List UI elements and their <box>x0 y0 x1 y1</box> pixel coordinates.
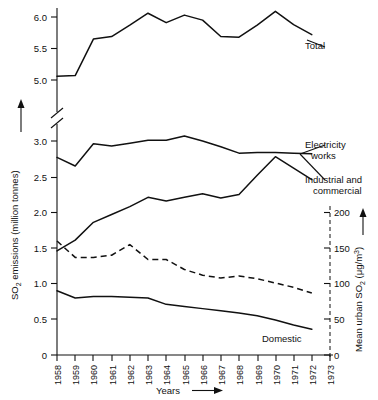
left-axis-arrow-icon <box>18 99 25 132</box>
right-axis-title-part2: (μg/m <box>353 254 364 281</box>
left-y-ticks: 6.0 5.5 5.0 3.0 2.5 2.0 1.5 1.0 0.5 0 <box>34 12 57 361</box>
series-layer <box>57 11 312 329</box>
ytick-label-1.5: 1.5 <box>34 243 47 254</box>
xtick-label-1968: 1968 <box>235 365 245 385</box>
series-line-electricity-works <box>57 136 312 166</box>
xtick-label-1961: 1961 <box>108 365 118 385</box>
rtick-label-150: 150 <box>334 243 350 254</box>
right-y-ticks: 200 150 100 50 0 <box>324 207 350 361</box>
ytick-label-0.5: 0.5 <box>34 314 47 325</box>
series-line-mean-urban-so2 <box>57 241 312 293</box>
left-axis-title: SO2 emissions (million tonnes) <box>9 170 22 300</box>
left-axis-title-part1: SO <box>9 286 20 300</box>
x-axis-title: Years <box>156 385 180 396</box>
xtick-label-1960: 1960 <box>89 365 99 385</box>
ytick-label-2.5: 2.5 <box>34 172 47 183</box>
left-axis-title-part2: emissions (million tonnes) <box>9 170 20 282</box>
series-line-total <box>57 11 312 76</box>
xtick-label-1963: 1963 <box>144 365 154 385</box>
annotation-electricity-line1: Electricity <box>305 139 346 150</box>
x-ticks: 1958 1959 1960 1961 1962 1963 1964 1965 … <box>53 355 336 385</box>
rtick-label-100: 100 <box>334 278 350 289</box>
ytick-label-5.5: 5.5 <box>34 43 47 54</box>
ytick-label-5.0: 5.0 <box>34 75 47 86</box>
xtick-label-1973: 1973 <box>326 365 336 385</box>
xtick-label-1972: 1972 <box>308 365 318 385</box>
right-axis-title-end: ) <box>353 247 364 250</box>
series-line-domestic <box>57 291 312 330</box>
annotation-electricity-line2: works <box>310 150 336 161</box>
ytick-label-3.0: 3.0 <box>34 136 47 147</box>
xtick-label-1966: 1966 <box>199 365 209 385</box>
ytick-label-0: 0 <box>42 350 47 361</box>
rtick-label-200: 200 <box>334 207 350 218</box>
xtick-label-1971: 1971 <box>290 365 300 385</box>
xtick-label-1965: 1965 <box>181 365 191 385</box>
xtick-label-1962: 1962 <box>126 365 136 385</box>
left-axis-group <box>51 8 63 355</box>
ytick-label-2.0: 2.0 <box>34 207 47 218</box>
xtick-label-1969: 1969 <box>254 365 264 385</box>
annotation-industrial-line2: commercial <box>313 185 362 196</box>
annotation-industrial-line1: Industrial and <box>305 174 362 185</box>
ytick-label-1.0: 1.0 <box>34 278 47 289</box>
right-axis-title: Mean urban SO2 (μg/m3) <box>353 247 366 352</box>
xtick-label-1967: 1967 <box>217 365 227 385</box>
ytick-label-6.0: 6.0 <box>34 12 47 23</box>
right-axis-arrow-icon <box>360 208 367 235</box>
annotation-domestic: Domestic <box>262 333 302 344</box>
series-line-industrial-and-commercial <box>57 157 312 251</box>
annotation-labels: Total Electricity works Industrial and c… <box>262 40 362 344</box>
rtick-label-50: 50 <box>334 314 345 325</box>
so2-emissions-chart: 6.0 5.5 5.0 3.0 2.5 2.0 1.5 1.0 0.5 0 20… <box>0 0 378 400</box>
xtick-label-1959: 1959 <box>71 365 81 385</box>
xtick-label-1964: 1964 <box>162 365 172 385</box>
xtick-label-1958: 1958 <box>53 365 63 385</box>
chart-svg: 6.0 5.5 5.0 3.0 2.5 2.0 1.5 1.0 0.5 0 20… <box>0 0 378 400</box>
x-axis-arrow-icon <box>192 387 223 394</box>
annotation-total: Total <box>305 40 325 51</box>
right-axis-title-part1: Mean urban SO <box>353 285 364 352</box>
rtick-label-0: 0 <box>334 350 339 361</box>
xtick-label-1970: 1970 <box>272 365 282 385</box>
